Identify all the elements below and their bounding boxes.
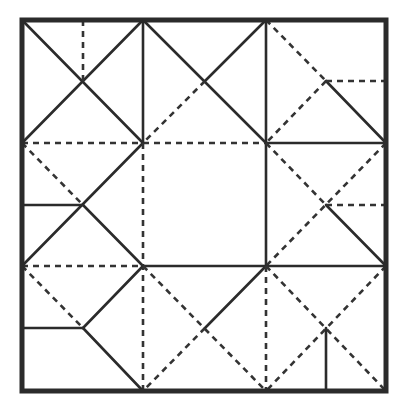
mountain-fold-line — [205, 266, 266, 328]
valley-fold-line — [266, 20, 326, 81]
fold-lines — [22, 20, 386, 391]
crease-pattern-diagram — [0, 0, 405, 406]
mountain-fold-line — [205, 20, 266, 81]
mountain-fold-line — [83, 205, 143, 266]
mountain-fold-line — [83, 266, 143, 328]
valley-fold-line — [143, 81, 205, 143]
valley-fold-line — [22, 143, 83, 205]
mountain-fold-line — [83, 328, 143, 391]
mountain-fold-line — [326, 205, 386, 266]
valley-fold-line — [143, 328, 205, 391]
mountain-fold-line — [326, 81, 386, 143]
valley-fold-line — [266, 81, 326, 143]
valley-fold-line — [22, 266, 83, 328]
valley-fold-line — [266, 143, 326, 205]
